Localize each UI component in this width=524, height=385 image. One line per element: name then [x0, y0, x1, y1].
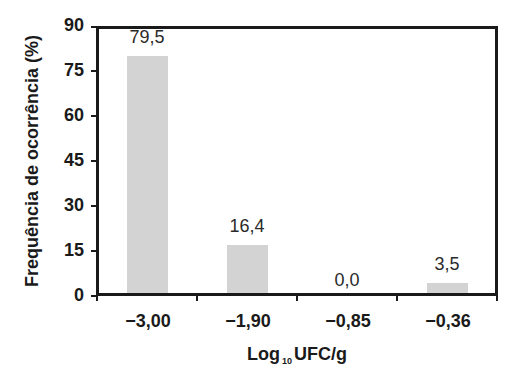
value-label: 3,5 [407, 254, 487, 275]
y-tick-label: 0 [44, 285, 84, 306]
x-tick-label: −3,00 [103, 311, 193, 332]
x-tick-mark [396, 296, 398, 301]
y-tick-label: 30 [44, 195, 84, 216]
x-tick-label: −1,90 [203, 311, 293, 332]
x-tick-mark [196, 296, 198, 301]
x-tick-mark [296, 296, 298, 301]
x-tick-mark [496, 296, 498, 301]
plot-area: 79,5 16,4 0,0 3,5 [96, 26, 498, 296]
x-axis-label-sub: 10 [282, 356, 292, 366]
bar-neg-1-90 [227, 245, 268, 293]
y-tick-label: 45 [44, 150, 84, 171]
y-axis-label: Frequência de ocorrência (%) [22, 35, 43, 287]
value-label: 16,4 [207, 216, 287, 237]
y-tick-label: 15 [44, 240, 84, 261]
bar-neg-0-36 [427, 283, 468, 293]
value-label: 79,5 [107, 27, 187, 48]
bar-neg-3-00 [127, 56, 168, 293]
x-tick-mark [96, 296, 98, 301]
y-tick-label: 60 [44, 105, 84, 126]
x-axis-label: Log10UFC/g [0, 344, 524, 366]
x-tick-label: −0,36 [403, 311, 493, 332]
value-label: 0,0 [307, 270, 387, 291]
x-axis-label-pre: Log [247, 344, 280, 364]
y-tick-label: 75 [44, 60, 84, 81]
y-tick-label: 90 [44, 15, 84, 36]
x-tick-label: −0,85 [303, 311, 393, 332]
x-axis-label-post: UFC/g [294, 344, 347, 364]
